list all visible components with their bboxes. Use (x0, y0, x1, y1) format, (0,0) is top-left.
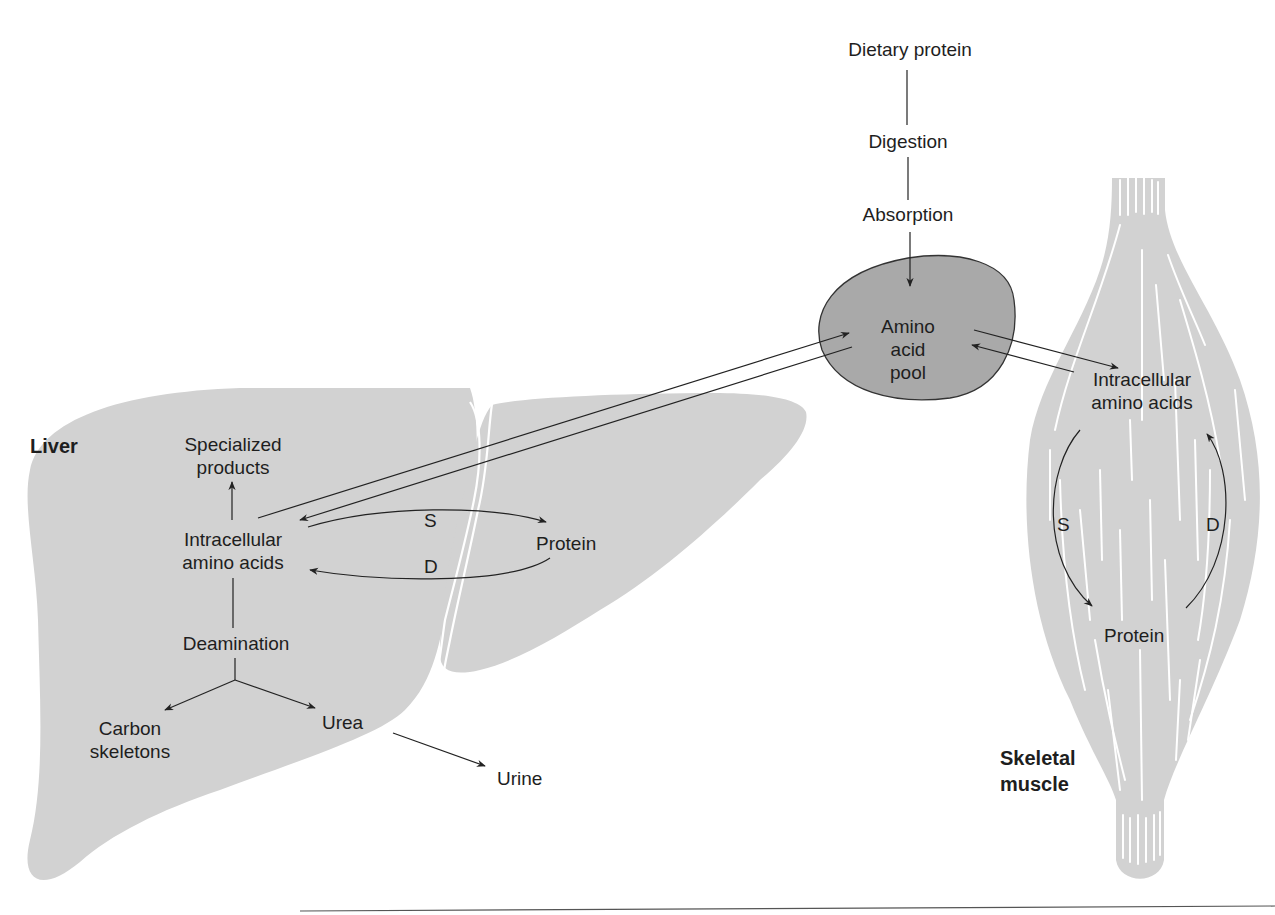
pool-label-line2: acid (868, 338, 948, 361)
muscle-organ-label-line1: Skeletal (1000, 745, 1076, 771)
muscle-organ-label: Skeletal muscle (1000, 745, 1076, 797)
carbon-skeletons-label: Carbon skeletons (75, 717, 185, 763)
liver-right-lobe-shape (440, 393, 807, 673)
label-absorption: Absorption (843, 203, 973, 226)
specialized-line1: Specialized (165, 433, 301, 456)
muscle-intracellular-label: Intracellular amino acids (1072, 368, 1212, 414)
label-dietary-protein: Dietary protein (830, 38, 990, 61)
muscle-intracellular-line1: Intracellular (1072, 368, 1212, 391)
label-digestion: Digestion (848, 130, 968, 153)
liver-intracellular-line1: Intracellular (165, 528, 301, 551)
liver-synthesis-label: S (424, 509, 437, 532)
carbon-line1: Carbon (75, 717, 185, 740)
carbon-line2: skeletons (75, 740, 185, 763)
liver-intracellular-label: Intracellular amino acids (165, 528, 301, 574)
muscle-degradation-label: D (1206, 513, 1220, 536)
liver-organ-label: Liver (30, 433, 78, 459)
deamination-label: Deamination (168, 632, 304, 655)
muscle-protein-label: Protein (1104, 624, 1164, 647)
pool-label: Amino acid pool (868, 315, 948, 384)
specialized-products-label: Specialized products (165, 433, 301, 479)
muscle-intracellular-line2: amino acids (1072, 391, 1212, 414)
urine-label: Urine (497, 767, 542, 790)
specialized-line2: products (165, 456, 301, 479)
liver-intracellular-line2: amino acids (165, 551, 301, 574)
liver-degradation-label: D (424, 555, 438, 578)
muscle-organ-label-line2: muscle (1000, 771, 1076, 797)
bottom-rule (300, 906, 1275, 911)
muscle-synthesis-label: S (1057, 513, 1070, 536)
urea-label: Urea (322, 711, 363, 734)
pool-label-line1: Amino (868, 315, 948, 338)
arrow-urea-to-urine (393, 733, 485, 766)
pool-label-line3: pool (868, 361, 948, 384)
liver-protein-label: Protein (536, 532, 596, 555)
